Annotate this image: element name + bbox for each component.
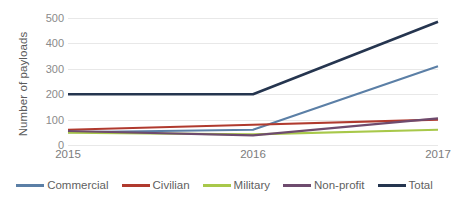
plot-area <box>68 18 438 145</box>
legend-label: Military <box>234 179 270 191</box>
legend-item-non-profit[interactable]: Non-profit <box>283 179 365 191</box>
x-tick-label: 2015 <box>33 148 103 160</box>
x-tick-label: 2016 <box>218 148 288 160</box>
y-tick-label: 200 <box>16 89 64 100</box>
legend-label: Non-profit <box>314 179 365 191</box>
legend-swatch-icon <box>283 184 311 187</box>
y-tick-label: 100 <box>16 115 64 126</box>
legend-swatch-icon <box>378 184 406 187</box>
gridline <box>68 145 438 146</box>
y-tick-label: 500 <box>16 13 64 24</box>
legend-item-civilian[interactable]: Civilian <box>122 179 190 191</box>
series-line-civilian <box>68 120 438 130</box>
legend-swatch-icon <box>16 184 44 187</box>
x-axis-tick-labels: 201520162017 <box>68 148 438 166</box>
legend-swatch-icon <box>203 184 231 187</box>
chart-legend: CommercialCivilianMilitaryNon-profitTota… <box>0 175 449 195</box>
legend-label: Commercial <box>47 179 108 191</box>
legend-swatch-icon <box>122 184 150 187</box>
series-line-total <box>68 22 438 94</box>
legend-item-military[interactable]: Military <box>203 179 270 191</box>
legend-label: Civilian <box>153 179 190 191</box>
y-tick-label: 400 <box>16 38 64 49</box>
legend-item-commercial[interactable]: Commercial <box>16 179 108 191</box>
y-axis-tick-labels: 5004003002001000 <box>14 0 64 204</box>
legend-label: Total <box>409 179 433 191</box>
x-tick-label: 2017 <box>403 148 455 160</box>
series-lines <box>68 18 438 145</box>
y-tick-label: 300 <box>16 64 64 75</box>
legend-item-total[interactable]: Total <box>378 179 433 191</box>
